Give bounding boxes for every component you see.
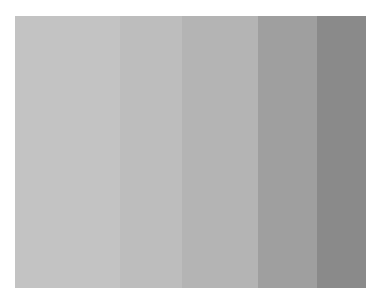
gray-step-wedge bbox=[15, 16, 366, 288]
band-2 bbox=[120, 16, 182, 288]
band-3 bbox=[182, 16, 258, 288]
band-1 bbox=[15, 16, 120, 288]
band-5 bbox=[317, 16, 366, 288]
band-4 bbox=[258, 16, 317, 288]
